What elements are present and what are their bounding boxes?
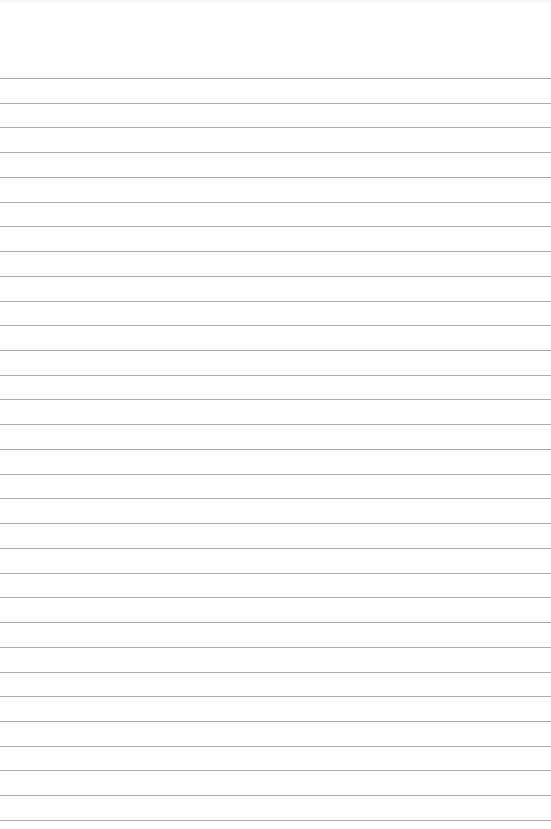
- ruled-line: [0, 127, 551, 128]
- ruled-line: [0, 548, 551, 549]
- ruled-line: [0, 226, 551, 227]
- ruled-line: [0, 647, 551, 648]
- ruled-line: [0, 103, 551, 104]
- top-edge-shadow: [0, 0, 551, 4]
- ruled-line: [0, 449, 551, 450]
- ruled-line: [0, 350, 551, 351]
- ruled-line: [0, 597, 551, 598]
- ruled-line: [0, 622, 551, 623]
- ruled-line: [0, 474, 551, 475]
- ruled-line: [0, 202, 551, 203]
- ruled-line: [0, 672, 551, 673]
- ruled-line: [0, 276, 551, 277]
- ruled-line: [0, 251, 551, 252]
- ruled-line: [0, 523, 551, 524]
- ruled-line: [0, 770, 551, 771]
- lined-paper-page: [0, 0, 551, 829]
- ruled-line: [0, 375, 551, 376]
- ruled-line: [0, 301, 551, 302]
- ruled-line: [0, 820, 551, 821]
- ruled-line: [0, 152, 551, 153]
- ruled-line: [0, 746, 551, 747]
- ruled-line: [0, 795, 551, 796]
- ruled-line: [0, 721, 551, 722]
- ruled-line: [0, 498, 551, 499]
- ruled-line: [0, 177, 551, 178]
- ruled-line: [0, 424, 551, 425]
- ruled-line: [0, 573, 551, 574]
- ruled-line: [0, 78, 551, 79]
- ruled-line: [0, 325, 551, 326]
- ruled-line: [0, 399, 551, 400]
- ruled-line: [0, 696, 551, 697]
